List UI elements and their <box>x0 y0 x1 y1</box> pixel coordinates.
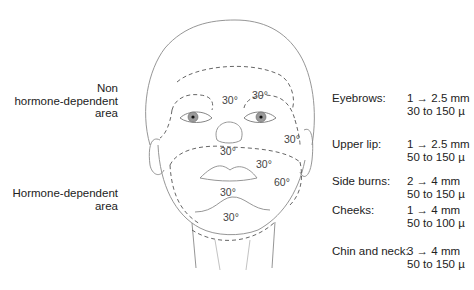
legend-depth: 1 → 4 mm <box>407 204 465 217</box>
legend-region: Eyebrows: <box>332 92 386 105</box>
angle-chin: 30° <box>220 186 236 198</box>
beard-boundary <box>170 165 200 224</box>
lower-lip <box>200 178 257 181</box>
angle-upper-lip: 30° <box>220 145 236 157</box>
legend-depth: 2 → 4 mm <box>407 175 465 188</box>
left-eye <box>180 112 212 123</box>
angle-side-burn: 60° <box>274 176 290 188</box>
legend-diameter: 30 to 150 µ <box>407 105 470 118</box>
left-ear <box>149 139 164 175</box>
legend-region: Cheeks: <box>332 204 374 217</box>
legend-values: 2 → 4 mm 50 to 150 µ <box>407 175 465 200</box>
neck-outline <box>272 222 275 268</box>
head-outline <box>146 20 315 145</box>
legend-values: 3 → 4 mm 50 to 150 µ <box>407 245 465 270</box>
legend-region: Upper lip: <box>332 138 381 151</box>
upper-lip <box>200 166 257 178</box>
legend-depth: 1 → 2.5 mm <box>407 138 470 151</box>
right-eye <box>244 112 276 123</box>
legend-region: Chin and neck: <box>332 245 409 258</box>
legend-diameter: 50 to 150 µ <box>407 258 465 271</box>
angle-neck: 30° <box>223 211 239 223</box>
chin-crease <box>195 197 270 212</box>
left-brow-boundary <box>172 95 213 110</box>
neck-outline <box>192 223 196 268</box>
neck-boundary <box>192 222 275 240</box>
legend-values: 1 → 2.5 mm 30 to 150 µ <box>407 92 470 117</box>
angle-forehead-right: 30° <box>252 89 268 101</box>
angle-cheek-right: 30° <box>256 158 272 170</box>
legend-depth: 3 → 4 mm <box>407 245 465 258</box>
legend-diameter: 50 to 100 µ <box>407 217 465 230</box>
legend-region: Side burns: <box>332 175 390 188</box>
angle-temple-right: 30° <box>284 133 300 145</box>
legend-values: 1 → 2.5 mm 50 to 150 µ <box>407 138 470 163</box>
legend-values: 1 → 4 mm 50 to 100 µ <box>407 204 465 229</box>
angle-forehead-left: 30° <box>222 94 238 106</box>
right-ear <box>300 129 313 176</box>
legend-diameter: 50 to 150 µ <box>407 151 470 164</box>
nose <box>216 122 242 143</box>
legend-depth: 1 → 2.5 mm <box>407 92 470 105</box>
legend-diameter: 50 to 150 µ <box>407 188 465 201</box>
side-burn-boundary <box>290 162 302 205</box>
